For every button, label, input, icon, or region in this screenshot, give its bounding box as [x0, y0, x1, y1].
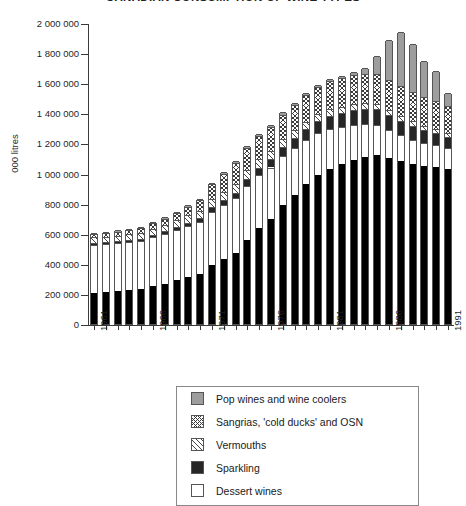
x-axis-tick — [247, 325, 248, 330]
bar-segment — [103, 232, 109, 233]
legend-item: Sangrias, 'cold ducks' and OSN — [177, 410, 418, 433]
bar-segment — [268, 151, 274, 159]
bar-segment — [174, 213, 180, 220]
bar-segment — [256, 168, 262, 175]
bar-1985 — [373, 57, 381, 325]
bar-segment — [126, 240, 132, 242]
bar-segment — [126, 242, 132, 290]
bar-segment — [256, 136, 262, 159]
bar-segment — [244, 240, 250, 324]
bar-1989 — [420, 62, 428, 325]
bar-segment — [339, 76, 345, 78]
bar-segment — [327, 116, 333, 129]
bar-segment — [445, 137, 451, 148]
bar-segment — [256, 228, 262, 324]
bar-segment — [103, 244, 109, 292]
bar-segment — [292, 130, 298, 138]
y-axis-tick — [81, 84, 88, 85]
bar-segment — [174, 212, 180, 213]
bar-1990 — [432, 72, 440, 325]
bar-segment — [162, 231, 168, 234]
x-axis-tick — [365, 325, 366, 330]
bar-segment — [362, 109, 368, 124]
legend-label: Pop wines and wine coolers — [216, 393, 346, 405]
bar-segment — [138, 241, 144, 289]
bar-1991 — [444, 94, 452, 325]
legend-swatch-icon — [191, 392, 204, 405]
bar-segment — [292, 195, 298, 324]
bar-segment — [162, 225, 168, 232]
bar-segment — [292, 138, 298, 148]
x-axis-tick — [212, 325, 213, 330]
bar-segment — [221, 205, 227, 259]
bar-segment — [126, 229, 132, 230]
bar-segment — [138, 289, 144, 324]
bar-segment — [351, 125, 357, 160]
legend-item: Pop wines and wine coolers — [177, 387, 418, 410]
legend-item: Sparkling — [177, 456, 418, 479]
bar-segment — [185, 226, 191, 277]
bar-segment — [233, 198, 239, 253]
bar-segment — [292, 148, 298, 195]
bar-segment — [233, 184, 239, 193]
y-axis-tick — [81, 144, 88, 145]
bar-segment — [209, 207, 215, 212]
bar-segment — [398, 121, 404, 135]
bar-segment — [256, 175, 262, 228]
bar-segment — [221, 172, 227, 174]
bar-segment — [433, 145, 439, 168]
bar-segment — [233, 253, 239, 324]
x-axis-tick-label: 1961 — [98, 310, 109, 331]
bar-segment — [268, 159, 274, 167]
x-axis-tick-label: 1991 — [452, 310, 463, 331]
bar-segment — [233, 161, 239, 163]
x-axis-tick — [188, 325, 189, 330]
bar-segment — [244, 186, 250, 240]
bar-segment — [421, 130, 427, 143]
bar-segment — [244, 148, 250, 171]
bar-segment — [386, 130, 392, 159]
y-axis-tick-label: 0 — [7, 319, 79, 330]
bar-segment — [150, 229, 156, 235]
y-axis-tick-label: 1 200 000 — [7, 138, 79, 149]
bar-segment — [433, 71, 439, 101]
bar-segment — [126, 230, 132, 234]
bar-segment — [339, 113, 345, 127]
x-axis-tick — [141, 325, 142, 330]
plot-area — [88, 24, 454, 325]
bar-segment — [197, 211, 203, 219]
y-axis-tick-label: 400 000 — [7, 259, 79, 270]
bar-1987 — [397, 33, 405, 325]
x-axis-tick-label: 1966 — [157, 310, 168, 331]
bar-1974 — [243, 147, 251, 325]
bar-segment — [410, 92, 416, 121]
bar-segment — [292, 105, 298, 131]
bar-segment — [150, 237, 156, 286]
bar-segment — [433, 167, 439, 324]
bar-segment — [115, 230, 121, 231]
bar-segment — [433, 133, 439, 145]
bar-segment — [233, 163, 239, 184]
bar-segment — [244, 170, 250, 179]
bar-segment — [315, 121, 321, 133]
bar-segment — [162, 219, 168, 225]
y-axis-tick — [81, 295, 88, 296]
bar-segment — [233, 193, 239, 199]
y-axis-tick-label: 1 800 000 — [7, 48, 79, 59]
bar-segment — [185, 207, 191, 216]
bar-1975 — [255, 135, 263, 325]
bar-segment — [303, 122, 309, 129]
bar-segment — [221, 200, 227, 205]
bar-segment — [327, 79, 333, 81]
y-axis-tick — [81, 175, 88, 176]
x-axis-tick — [118, 325, 119, 330]
bar-segment — [303, 140, 309, 184]
bar-segment — [327, 129, 333, 169]
bar-segment — [150, 223, 156, 228]
bar-1973 — [232, 162, 240, 325]
y-axis-tick — [81, 205, 88, 206]
bar-segment — [374, 109, 380, 124]
bar-segment — [351, 110, 357, 124]
bar-segment — [209, 212, 215, 265]
